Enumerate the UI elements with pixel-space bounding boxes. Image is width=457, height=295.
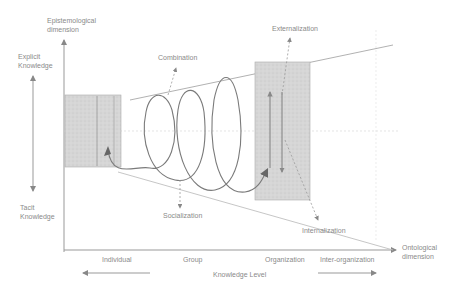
internalization-label: Internalization (302, 226, 346, 235)
tacit-knowledge-label: Tacit Knowledge (20, 203, 55, 221)
tacit-line1: Tacit (20, 203, 55, 212)
epistemological-label-line1: Epistemological (47, 16, 96, 25)
organization-box (255, 62, 310, 200)
socialization-label: Socialization (163, 211, 202, 220)
explicit-knowledge-label: Explicit Knowledge (18, 52, 53, 70)
level-inter-organization: Inter-organization (320, 255, 374, 264)
ontological-label-line2: dimension (402, 252, 437, 261)
combination-label: Combination (158, 53, 197, 62)
explicit-line1: Explicit (18, 52, 53, 61)
epistemological-dimension-label: Epistemological dimension (47, 16, 96, 34)
explicit-line2: Knowledge (18, 61, 53, 70)
ontological-label-line1: Ontological (402, 243, 437, 252)
diagram-canvas (0, 0, 457, 295)
ontological-dimension-label: Ontological dimension (402, 243, 437, 261)
knowledge-level-caption: Knowledge Level (213, 270, 266, 279)
tacit-line2: Knowledge (20, 212, 55, 221)
level-individual: Individual (102, 255, 132, 264)
level-organization: Organization (265, 255, 305, 264)
externalization-label: Externalization (272, 24, 318, 33)
knowledge-spiral (108, 78, 267, 193)
individual-box (65, 95, 121, 167)
epistemological-label-line2: dimension (47, 25, 96, 34)
level-group: Group (183, 255, 202, 264)
